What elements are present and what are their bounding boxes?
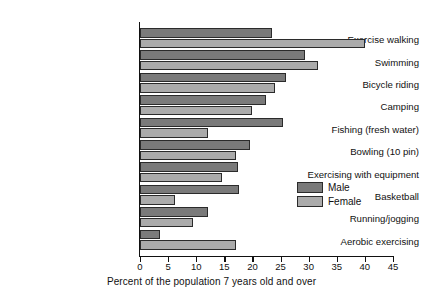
legend-swatch-male-icon (297, 182, 323, 193)
x-tick-label: 25 (269, 262, 293, 272)
bar-female (140, 128, 208, 138)
bar-female (140, 173, 222, 183)
x-tick-label: 40 (353, 262, 377, 272)
bar-male (140, 118, 283, 128)
bar-male (140, 162, 238, 172)
bar-male (140, 50, 305, 60)
legend-item-male: Male (297, 182, 361, 193)
bar-male (140, 140, 250, 150)
x-tick-label: 45 (381, 262, 405, 272)
bar-chart: 051015202530354045 Exercise walkingSwimm… (0, 0, 423, 299)
x-tick-label: 20 (240, 262, 264, 272)
bar-female (140, 39, 365, 49)
y-axis-category-label: Camping (289, 102, 423, 112)
y-axis-category-label: Bicycle riding (289, 80, 423, 90)
x-tick-label: 5 (156, 262, 180, 272)
bar-female (140, 218, 193, 228)
bar-female (140, 195, 175, 205)
bar-female (140, 61, 318, 71)
y-axis-category-label: Running/jogging (289, 214, 423, 224)
x-tick-label: 35 (325, 262, 349, 272)
bar-female (140, 240, 236, 250)
x-tick-label: 0 (128, 262, 152, 272)
x-axis-title: Percent of the population 7 years old an… (0, 276, 423, 287)
x-tick-label: 10 (184, 262, 208, 272)
y-axis-category-label: Exercising with equipment (289, 170, 423, 180)
bar-female (140, 106, 252, 116)
bar-female (140, 83, 275, 93)
x-tick-label: 30 (297, 262, 321, 272)
y-axis-category-label: Bowling (10 pin) (289, 147, 423, 157)
legend-swatch-female-icon (297, 196, 323, 207)
bar-male (140, 230, 160, 240)
bar-male (140, 73, 286, 83)
x-tick-label: 15 (212, 262, 236, 272)
bar-male (140, 207, 208, 217)
y-axis-category-label: Fishing (fresh water) (289, 125, 423, 135)
legend-label-female: Female (328, 196, 361, 207)
legend-label-male: Male (328, 182, 350, 193)
bar-male (140, 28, 272, 38)
legend: Male Female (297, 182, 361, 210)
y-axis-category-label: Aerobic exercising (289, 237, 423, 247)
bar-male (140, 185, 239, 195)
legend-item-female: Female (297, 196, 361, 207)
bar-female (140, 151, 236, 161)
x-axis-line (139, 256, 394, 257)
bar-male (140, 95, 266, 105)
